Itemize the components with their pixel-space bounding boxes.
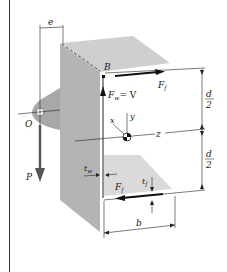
z-axis-right <box>165 129 205 133</box>
e-dim <box>40 27 63 28</box>
d-arrow-mid-down <box>200 131 204 136</box>
label-b: b <box>136 218 142 228</box>
b-arrow-left <box>104 231 109 235</box>
d-arrow-bottom <box>200 184 204 189</box>
label-d-bot-den: 2 <box>205 160 212 170</box>
x-axis <box>113 124 124 134</box>
label-O: O <box>25 119 33 129</box>
ff-top-arrow <box>115 72 158 76</box>
label-P: P <box>25 172 33 182</box>
label-Fw: Fw= V <box>107 90 137 101</box>
label-x: x <box>110 116 115 125</box>
d-arrow-top <box>200 70 204 75</box>
tf-arrowhead-bottom <box>150 200 154 205</box>
label-e: e <box>48 17 53 27</box>
label-B: B <box>103 62 111 72</box>
ff-bottom-arrow <box>122 194 163 198</box>
label-d-bot-num: d <box>206 149 212 159</box>
label-z: z <box>155 129 161 139</box>
label-d-top-num: d <box>206 89 212 99</box>
b-arrow-right <box>170 224 175 228</box>
label-y: y <box>129 112 135 121</box>
channel-shear-center-diagram: e O P B Ff Fw= V z y x d 2 d 2 Ff tf <box>0 0 227 272</box>
web-face <box>60 43 100 232</box>
ff-bottom-arrowhead <box>115 195 125 201</box>
label-d-top-den: 2 <box>205 100 212 110</box>
d-arrow-mid-up <box>200 124 204 129</box>
bracket <box>32 88 60 130</box>
p-arrowhead <box>35 168 45 182</box>
label-Ff-top: Ff <box>157 80 168 92</box>
point-B <box>102 75 105 78</box>
bottom-flange <box>102 155 172 196</box>
